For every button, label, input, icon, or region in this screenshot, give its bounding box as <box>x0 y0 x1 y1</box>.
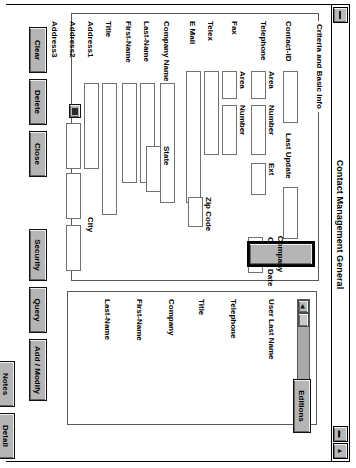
label-title: Title <box>104 21 113 37</box>
list-column-header: Last-Name <box>103 299 112 340</box>
company-button[interactable]: Company <box>249 243 313 265</box>
notes-button[interactable]: Notes <box>0 361 15 407</box>
clear-button[interactable]: Clear <box>29 27 47 73</box>
application-window: Contact Management General ▬ ▲ Criteria … <box>6 4 350 462</box>
label-telephone-area: Area <box>267 71 276 89</box>
label-fax-number: Number <box>238 105 247 135</box>
results-list-panel[interactable]: Last-Name First-Name Company Title Telep… <box>67 291 317 425</box>
telex-field[interactable] <box>204 71 219 155</box>
telephone-ext-field[interactable] <box>251 163 266 195</box>
label-company-name: Company Name <box>162 21 171 81</box>
security-button[interactable]: Security <box>29 229 47 281</box>
telephone-area-field[interactable] <box>251 71 266 99</box>
group-legend: Criteria and Basic Info <box>315 21 324 112</box>
label-fax-area: Area <box>238 71 247 89</box>
company-name-field[interactable] <box>160 83 175 203</box>
city-field[interactable] <box>66 225 81 271</box>
address3-field[interactable] <box>66 173 81 219</box>
add-modify-button[interactable]: Add / Modify <box>29 339 47 401</box>
close-button[interactable]: Close <box>29 131 47 177</box>
fax-number-field[interactable] <box>222 105 237 155</box>
telephone-number-field[interactable] <box>251 105 266 155</box>
label-address2: Address2 <box>68 21 77 57</box>
system-menu-icon[interactable] <box>333 7 348 23</box>
email-field[interactable] <box>186 71 201 203</box>
label-telephone-number: Number <box>267 105 276 135</box>
query-button[interactable]: Query <box>29 287 47 333</box>
last-update-field[interactable] <box>283 187 298 239</box>
label-last-name: Last-Name <box>142 21 151 62</box>
delete-button[interactable]: Delete <box>29 79 47 125</box>
label-zip-code: Zip Code <box>204 197 213 231</box>
editions-button[interactable]: Editions <box>293 379 311 433</box>
label-address1: Address1 <box>86 21 95 57</box>
minimize-button[interactable]: ▬ <box>333 426 348 442</box>
rotated-screenshot-stage: Contact Management General ▬ ▲ Criteria … <box>0 0 356 468</box>
label-email: E Mail <box>188 21 197 44</box>
first-name-field[interactable] <box>122 83 137 183</box>
label-city: City <box>86 217 95 232</box>
list-column-header: User Last Name <box>267 299 276 359</box>
label-state: State <box>162 146 171 166</box>
label-contact-id: Contact-ID <box>284 21 293 61</box>
label-address3: Address3 <box>50 21 59 57</box>
list-column-header: First-Name <box>135 299 144 341</box>
address1-field[interactable] <box>84 83 99 169</box>
address2-field[interactable] <box>66 123 81 169</box>
label-first-name: First-Name <box>124 21 133 63</box>
label-last-update: Last Update <box>284 133 293 179</box>
window-controls: ▬ ▲ <box>333 426 348 459</box>
fax-area-field[interactable] <box>222 71 237 99</box>
maximize-button[interactable]: ▲ <box>333 443 348 459</box>
title-bar: Contact Management General ▬ ▲ <box>331 5 349 461</box>
detail-button[interactable]: Detail <box>0 413 15 459</box>
client-area: Criteria and Basic Info Contact-ID Last … <box>5 5 331 461</box>
label-telex: Telex <box>206 21 215 41</box>
scrollbar-thumb[interactable] <box>298 313 309 327</box>
contact-id-field[interactable] <box>283 71 298 123</box>
label-fax: Fax <box>230 21 239 35</box>
scroll-left-arrow-icon[interactable]: ◀ <box>298 300 309 313</box>
list-column-header: Company <box>167 299 176 335</box>
state-field[interactable] <box>146 146 161 192</box>
label-telephone: Telephone <box>259 21 268 60</box>
list-column-header: Telephone <box>229 299 238 338</box>
list-column-header: Title <box>197 299 206 315</box>
window-title: Contact Management General <box>336 23 346 426</box>
title-field[interactable] <box>102 83 117 215</box>
lookup-icon-button[interactable] <box>69 104 81 118</box>
label-telephone-ext: Ext <box>267 163 276 175</box>
zip-code-field[interactable] <box>188 197 203 227</box>
